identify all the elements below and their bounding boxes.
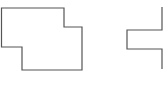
left-stepped-polygon [2,8,83,70]
diagram-canvas [0,0,165,89]
right-notched-outline [127,7,162,69]
